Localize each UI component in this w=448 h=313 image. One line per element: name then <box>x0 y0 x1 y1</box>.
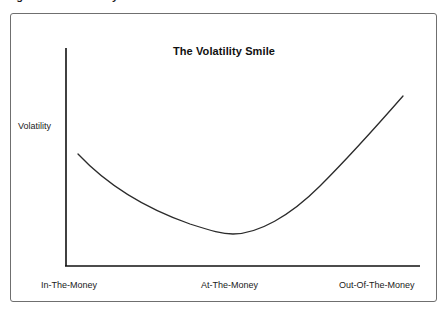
x-tick-label-in-the-money: In-The-Money <box>41 280 97 290</box>
x-tick-label-out-of-the-money: Out-Of-The-Money <box>339 280 415 290</box>
volatility-smile-curve <box>78 96 403 234</box>
volatility-smile-figure: Figure: The Volatility Smile The Volatil… <box>0 0 448 313</box>
plot-area <box>0 0 448 313</box>
x-tick-label-at-the-money: At-The-Money <box>201 280 258 290</box>
